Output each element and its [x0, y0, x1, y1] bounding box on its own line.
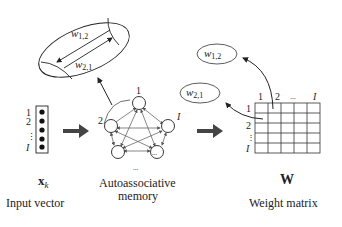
- weight-matrix: [255, 103, 320, 153]
- node-1: [133, 97, 146, 110]
- vector-row-I: I: [25, 142, 30, 153]
- zoom-pointer-arrow: [98, 78, 112, 105]
- matrix-row-I: I: [245, 143, 250, 154]
- input-vector: 1 2 ⋮ I xk Input vector: [6, 106, 64, 210]
- label-w21: w2,1: [75, 58, 92, 72]
- matrix-row-2: 2: [246, 120, 251, 131]
- node-bottom-left: [112, 146, 125, 159]
- node-2: [105, 120, 118, 133]
- matrix-col-1: 1: [258, 91, 263, 102]
- input-vector-caption: Input vector: [6, 196, 64, 210]
- node-label-1: 1: [136, 85, 141, 96]
- node-label-2: 2: [98, 115, 103, 126]
- node-I: [162, 120, 175, 133]
- node-label-dots: ...: [152, 149, 158, 157]
- flow-arrow-1: [63, 124, 89, 138]
- autoassociative-network: [104, 97, 175, 159]
- weight-matrix-caption: Weight matrix: [249, 196, 318, 210]
- svg-text:w1,2: w1,2: [204, 47, 221, 61]
- matrix-row-1: 1: [246, 103, 251, 114]
- vector-row-2: 2: [26, 116, 31, 127]
- callout-w12: w1,2: [197, 44, 237, 64]
- matrix-col-I: I: [312, 91, 317, 102]
- node-label-I: I: [176, 111, 181, 122]
- svg-text:w2,1: w2,1: [186, 86, 203, 100]
- network-caption-line1: Autoassociative: [99, 176, 176, 190]
- network-caption-line2: memory: [118, 189, 158, 203]
- zoom-ellipse: w1,2 w2,1: [31, 12, 136, 89]
- node-arc-right: [108, 18, 119, 45]
- node-label-below-dots: ...: [133, 164, 139, 172]
- matrix-row-dots: ⋮: [247, 133, 255, 142]
- callout-w21-arrow: [226, 103, 263, 119]
- callout-w21: w2,1: [180, 83, 220, 103]
- label-w12: w1,2: [71, 27, 88, 41]
- matrix-col-dots: ...: [290, 92, 296, 101]
- matrix-col-2: 2: [275, 91, 280, 102]
- vector-row-dots: ⋮: [27, 132, 36, 142]
- flow-arrow-2: [197, 124, 223, 138]
- autoassociative-memory-diagram: w1,2 w2,1 1 2 ⋮ I xk Input vector: [0, 0, 342, 227]
- vector-symbol: xk: [38, 173, 50, 190]
- matrix-symbol: W: [280, 172, 294, 187]
- matrix-grid: [255, 103, 320, 153]
